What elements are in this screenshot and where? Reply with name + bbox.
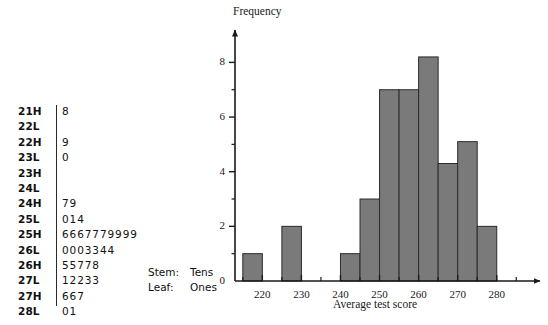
leaf-values: 667 xyxy=(62,289,85,304)
y-tick-label: 4 xyxy=(207,166,225,177)
stem-key-label: Stem: xyxy=(148,265,179,280)
histogram-bar xyxy=(360,199,380,281)
leaf-values: 9 xyxy=(62,135,70,150)
x-tick-label: 240 xyxy=(323,289,357,300)
stem-leaf-row: 25L 014 xyxy=(18,212,198,227)
stem-value: 26H xyxy=(18,258,52,273)
stem-leaf-row: 23H xyxy=(18,166,198,181)
histogram-bar xyxy=(380,90,400,281)
leaf-values: 01 xyxy=(62,304,77,319)
stem-value: 26L xyxy=(18,243,52,258)
x-tick-label: 220 xyxy=(245,289,279,300)
stem-value: 24H xyxy=(18,196,52,211)
stem-leaf-row: 21H 8 xyxy=(18,104,198,119)
stem-value: 23H xyxy=(18,166,52,181)
leaf-values: 0 xyxy=(62,150,70,165)
histogram-chart: Frequency Average test score 02468220230… xyxy=(200,0,548,325)
stem-leaf-row: 26L 0003344 xyxy=(18,243,198,258)
leaf-values: 6667779999 xyxy=(62,227,138,242)
x-tick-label: 260 xyxy=(402,289,436,300)
stem-leaf-row: 24H 79 xyxy=(18,196,198,211)
histogram-svg xyxy=(200,0,548,325)
stem-leaf-row: 22L xyxy=(18,119,198,134)
x-tick-label: 270 xyxy=(441,289,475,300)
stem-leaf-row: 24L xyxy=(18,181,198,196)
stem-leaf-row: 28L 01 xyxy=(18,304,198,319)
leaf-values: 8 xyxy=(62,104,70,119)
y-tick-label: 6 xyxy=(207,111,225,122)
leaf-values: 0003344 xyxy=(62,243,115,258)
histogram-bar xyxy=(458,142,478,281)
stem-value: 25L xyxy=(18,212,52,227)
stem-value: 28L xyxy=(18,304,52,319)
y-tick-label: 0 xyxy=(207,275,225,286)
y-tick-label: 2 xyxy=(207,220,225,231)
histogram-bar xyxy=(243,254,263,281)
stem-value: 25H xyxy=(18,227,52,242)
y-tick-label: 8 xyxy=(207,56,225,67)
histogram-bar xyxy=(340,254,360,281)
leaf-values: 55778 xyxy=(62,258,100,273)
stem-leaf-row: 23L 0 xyxy=(18,150,198,165)
histogram-bar xyxy=(399,90,419,281)
leaf-key-label: Leaf: xyxy=(148,280,173,295)
stem-leaf-row: 25H 6667779999 xyxy=(18,227,198,242)
leaf-values: 12233 xyxy=(62,273,100,288)
leaf-values: 79 xyxy=(62,196,77,211)
stem-leaf-divider xyxy=(56,105,57,306)
histogram-bar xyxy=(282,226,302,281)
x-tick-label: 280 xyxy=(480,289,514,300)
stem-value: 22H xyxy=(18,135,52,150)
stem-value: 23L xyxy=(18,150,52,165)
stem-value: 22L xyxy=(18,119,52,134)
histogram-bar xyxy=(419,57,439,281)
histogram-bar xyxy=(477,226,497,281)
stem-leaf-row: 22H 9 xyxy=(18,135,198,150)
stem-value: 21H xyxy=(18,104,52,119)
stem-value: 27L xyxy=(18,273,52,288)
histogram-bar xyxy=(438,164,458,282)
x-tick-label: 250 xyxy=(363,289,397,300)
stem-value: 27H xyxy=(18,289,52,304)
leaf-values: 014 xyxy=(62,212,85,227)
stem-value: 24L xyxy=(18,181,52,196)
x-tick-label: 230 xyxy=(284,289,318,300)
